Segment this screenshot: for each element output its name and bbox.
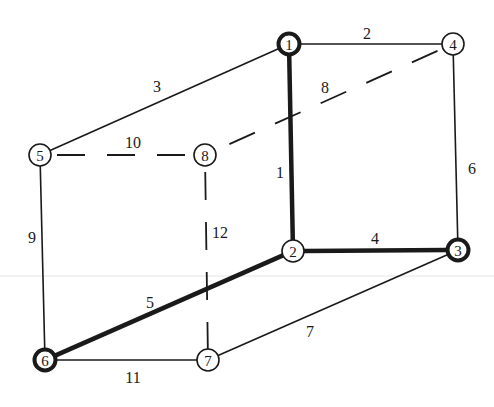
edge-label-10: 10 [125, 134, 141, 151]
edge-label-12: 12 [212, 224, 228, 241]
edge-4 [304, 250, 447, 251]
edge-label-8: 8 [321, 79, 329, 96]
node-8: 8 [194, 144, 216, 166]
edge-label-2: 2 [363, 25, 371, 42]
node-label: 3 [454, 243, 462, 259]
edge-label-5: 5 [146, 294, 154, 311]
node-label: 6 [41, 353, 49, 369]
edge-8 [215, 48, 443, 150]
edge-3 [50, 48, 279, 150]
edge-9 [40, 166, 44, 349]
edge-label-11: 11 [125, 369, 140, 386]
node-label: 2 [289, 244, 297, 260]
node-label: 1 [285, 37, 293, 53]
node-5: 5 [29, 144, 51, 166]
edge-label-3: 3 [153, 78, 161, 95]
node-label: 8 [201, 148, 209, 164]
node-label: 5 [36, 148, 44, 164]
edge-5 [55, 255, 283, 355]
edge-1 [289, 55, 293, 240]
node-label: 4 [449, 37, 457, 53]
edge-label-6: 6 [468, 160, 476, 177]
edge-label-7: 7 [306, 323, 314, 340]
edge-6 [453, 55, 457, 239]
node-3: 3 [448, 240, 469, 261]
edge-labels-layer: 123456789101112 [28, 25, 476, 386]
cube-graph-diagram: 123456789101112 12345678 [0, 0, 494, 407]
nodes-layer: 12345678 [29, 33, 469, 371]
edges-layer [40, 44, 457, 360]
edge-label-4: 4 [371, 230, 379, 247]
node-7: 7 [197, 349, 219, 371]
edge-label-1: 1 [276, 164, 284, 181]
node-label: 7 [204, 353, 212, 369]
node-6: 6 [35, 350, 56, 371]
edge-12 [205, 166, 208, 349]
node-4: 4 [442, 33, 464, 55]
node-1: 1 [279, 34, 300, 55]
edge-label-9: 9 [28, 229, 36, 246]
node-2: 2 [282, 240, 304, 262]
